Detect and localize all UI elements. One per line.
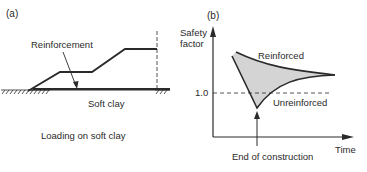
panel-b: (b) Safety factor Time 1.0 Reinforced Un… [180,10,356,162]
y-axis-arrowhead [210,26,216,37]
soft-clay-label: Soft clay [88,98,125,109]
y-axis-label-line2: factor [180,38,204,49]
reinforced-label: Reinforced [258,50,304,61]
panel-a: (a) [1,8,170,141]
x-axis-arrowhead [342,134,354,140]
reinforcement-label: Reinforcement [31,39,93,50]
panel-b-tag: (b) [207,10,219,21]
panel-a-caption: Loading on soft clay [41,130,126,141]
reference-tick-label: 1.0 [195,87,208,98]
panel-a-tag: (a) [6,8,18,19]
end-of-construction-arrowhead [254,111,260,119]
ground-hatch-left [1,90,50,94]
y-axis-label-line1: Safety [180,27,207,38]
figure: (a) [0,0,367,172]
embankment-profile [28,49,157,91]
end-of-construction-label: End of construction [232,151,313,162]
reinforcement-arrow [63,52,76,86]
ground-hatch-right [155,90,170,94]
x-axis-label: Time [335,144,356,155]
unreinforced-label: Unreinforced [273,97,327,108]
reinforcement-arrowhead [73,81,79,89]
